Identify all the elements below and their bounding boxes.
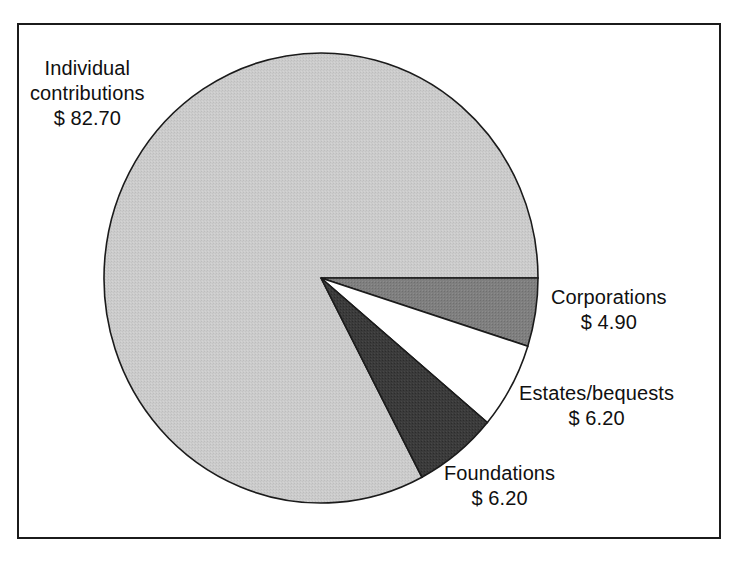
pie-label-individual-contributions: Individual contributions $ 82.70: [30, 56, 145, 131]
pie-label-individual-line1: Individual: [30, 56, 145, 81]
pie-label-estates-value: $ 6.20: [519, 406, 674, 431]
pie-label-individual-value: $ 82.70: [30, 106, 145, 131]
pie-label-individual-line2: contributions: [30, 81, 145, 106]
pie-label-estates-bequests: Estates/bequests $ 6.20: [519, 381, 674, 431]
pie-label-estates-name: Estates/bequests: [519, 381, 674, 406]
pie-label-corporations-name: Corporations: [551, 285, 667, 310]
pie-label-foundations-value: $ 6.20: [444, 486, 555, 511]
pie-chart-figure: Individual contributions $ 82.70 Corpora…: [0, 0, 743, 568]
pie-label-foundations-name: Foundations: [444, 461, 555, 486]
pie-label-corporations-value: $ 4.90: [551, 310, 667, 335]
pie-label-foundations: Foundations $ 6.20: [444, 461, 555, 511]
pie-label-corporations: Corporations $ 4.90: [551, 285, 667, 335]
